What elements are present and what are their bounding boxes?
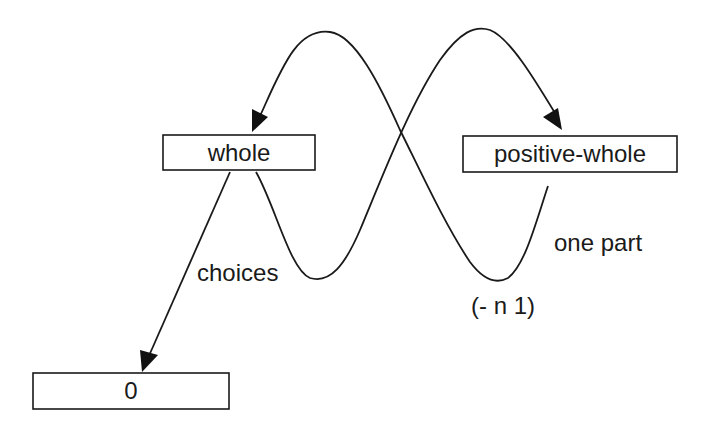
arrowhead-positive-whole [543, 108, 562, 130]
arrowhead-whole [252, 109, 268, 132]
edge-label-choices: choices [197, 259, 278, 286]
node-whole[interactable]: whole [163, 135, 315, 170]
node-zero-label: 0 [124, 377, 137, 404]
node-zero[interactable]: 0 [33, 373, 229, 409]
diagram-canvas: whole positive-whole 0 choices one part … [0, 0, 715, 428]
arrowhead-zero [140, 350, 158, 372]
edge-label-minus-n-1: (- n 1) [471, 292, 535, 319]
node-whole-label: whole [207, 139, 271, 166]
node-positive-whole[interactable]: positive-whole [463, 136, 677, 172]
node-positive-whole-label: positive-whole [494, 140, 646, 167]
edge-label-one-part: one part [554, 229, 642, 256]
